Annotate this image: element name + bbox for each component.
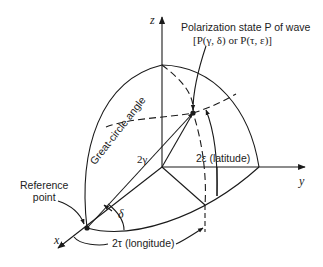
radius-bottom — [162, 167, 205, 205]
x-axis-label: x — [54, 234, 59, 246]
delta-label: δ — [118, 208, 124, 220]
latitude-label: 2ε (latitude) — [196, 153, 250, 164]
reference-label-line2: point — [20, 191, 68, 203]
longitude-label: 2τ (longitude) — [112, 238, 175, 249]
polarization-label-line1: Polarization state P of wave — [181, 22, 310, 33]
polarization-point-P — [190, 110, 195, 115]
poincare-sphere-diagram — [0, 0, 323, 267]
x-axis — [58, 167, 162, 248]
polarization-label-line2: [P(γ, δ) or P(τ, ε)] — [193, 35, 272, 46]
y-axis-label: y — [299, 175, 304, 187]
polarization-leader — [193, 46, 206, 110]
two-gamma-label: 2γ — [137, 154, 147, 165]
radius-to-P — [162, 113, 193, 167]
reference-to-P — [87, 113, 193, 228]
meridian-through-P — [162, 65, 205, 205]
reference-leader — [58, 201, 84, 224]
z-axis-label: z — [150, 14, 155, 26]
longitude-arrow-right — [176, 228, 203, 244]
reference-label-line1: Reference — [20, 179, 68, 191]
reference-point — [84, 225, 89, 230]
reference-point-label: Reference point — [20, 179, 68, 203]
longitude-arrow — [74, 237, 108, 245]
